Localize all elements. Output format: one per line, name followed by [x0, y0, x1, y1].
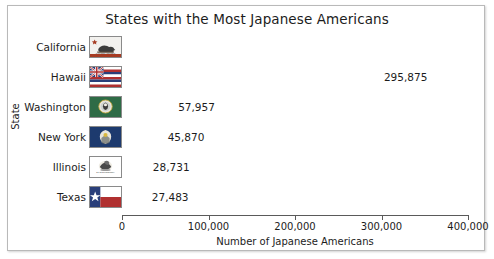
- x-tick-label: 300,000: [361, 221, 402, 232]
- bar-row: 395,399: [122, 36, 464, 59]
- category-label: Hawaii: [51, 71, 86, 83]
- bar-row: 295,875: [122, 66, 378, 89]
- flag-texas-icon: [89, 186, 122, 208]
- bar-value-label: 295,875: [384, 71, 427, 83]
- bar-value-label: 395,399: [416, 41, 459, 53]
- category-label: New York: [38, 131, 86, 143]
- flag-washington-icon: [89, 96, 122, 118]
- chart-title: States with the Most Japanese Americans: [8, 11, 486, 27]
- bar-value-label: 27,483: [152, 191, 189, 203]
- category-label-group: New York: [8, 126, 122, 149]
- flag-california-icon: CALIFORNIA REPUBLIC: [89, 36, 122, 58]
- category-label-group: California CALIFORNIA REPUBLIC: [8, 36, 122, 59]
- svg-text:STATE SOVEREIGNTY: STATE SOVEREIGNTY: [96, 172, 115, 174]
- x-tick-label: 100,000: [188, 221, 229, 232]
- category-label-group: Hawaii: [8, 66, 122, 89]
- bar-row: 28,731: [122, 156, 147, 179]
- bar-row: 57,957: [122, 96, 172, 119]
- category-label: Texas: [57, 191, 86, 203]
- category-label: Washington: [24, 101, 86, 113]
- category-label: California: [36, 41, 86, 53]
- category-label-group: Texas: [8, 186, 122, 209]
- category-label: Illinois: [53, 161, 86, 173]
- bar-row: 45,870: [122, 126, 162, 149]
- x-tick: [382, 215, 383, 220]
- bar-value-label: 57,957: [178, 101, 215, 113]
- bar-value-label: 45,870: [168, 131, 205, 143]
- bar-value-label: 28,731: [153, 161, 190, 173]
- chart-frame: States with the Most Japanese Americans …: [7, 5, 485, 251]
- plot-area: 395,399295,87557,95745,87028,73127,483: [122, 32, 468, 212]
- x-tick-label: 400,000: [447, 221, 488, 232]
- x-tick: [209, 215, 210, 220]
- bar-row: 27,483: [122, 186, 146, 209]
- flag-illinois-icon: STATE SOVEREIGNTY: [89, 156, 122, 178]
- x-tick-label: 200,000: [274, 221, 315, 232]
- x-tick: [122, 215, 123, 220]
- x-tick-label: 0: [119, 221, 125, 232]
- flag-new-york-icon: [89, 126, 122, 148]
- svg-text:CALIFORNIA REPUBLIC: CALIFORNIA REPUBLIC: [96, 52, 116, 54]
- flag-hawaii-icon: [89, 66, 122, 88]
- x-axis-title: Number of Japanese Americans: [122, 236, 468, 247]
- x-tick: [468, 215, 469, 220]
- category-label-group: Illinois STATE SOVEREIGNTY: [8, 156, 122, 179]
- x-tick: [295, 215, 296, 220]
- category-label-group: Washington: [8, 96, 122, 119]
